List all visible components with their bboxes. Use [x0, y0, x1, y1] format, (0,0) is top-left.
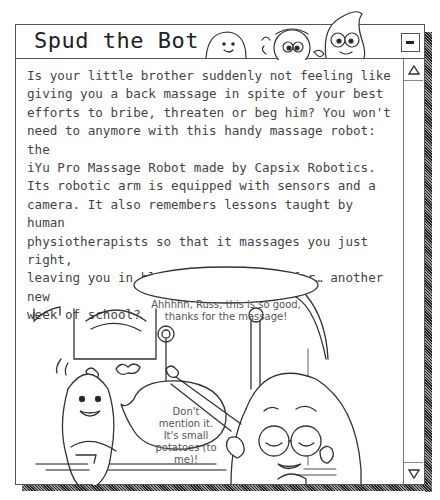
speech-bubble-1-text: Ahhhhh, Russ, this is so good, thanks fo… — [151, 299, 301, 323]
scroll-down-button[interactable] — [404, 462, 423, 484]
triangle-up-icon — [408, 65, 420, 75]
vertical-scrollbar[interactable] — [403, 59, 424, 484]
window-shadow-right — [425, 32, 432, 492]
window-shadow-bottom — [22, 484, 432, 491]
spud-window: Spud the Bot Is your little brother sudd… — [15, 24, 425, 485]
triangle-down-icon — [408, 469, 420, 479]
title-bar-characters-illustration — [0, 0, 440, 60]
speech-bubble-2-text: Don't mention it. It's small potatoes (t… — [151, 406, 221, 466]
scroll-up-button[interactable] — [404, 59, 423, 81]
content-area: Is your little brother suddenly not feel… — [16, 59, 403, 484]
speech-bubble-1 — [134, 267, 318, 303]
